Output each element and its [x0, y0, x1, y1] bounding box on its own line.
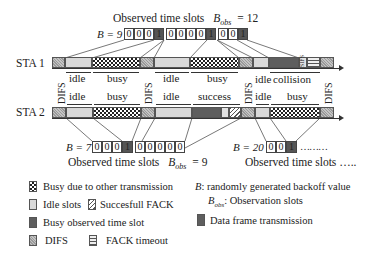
- slot: 0: [176, 28, 186, 40]
- sta2-difs: [320, 107, 334, 118]
- sta1-idle: [253, 57, 269, 68]
- sta2-difs: [52, 107, 66, 118]
- span-marker: [156, 104, 191, 105]
- bobs-sub: obs: [175, 162, 186, 171]
- sta1-busy-label: busy: [207, 73, 228, 84]
- slot: 0: [144, 28, 154, 40]
- b7-label: B = 7: [66, 142, 91, 153]
- idle-swatch-icon: [29, 199, 37, 210]
- bottom-observed2-label: Observed time slots …..: [245, 157, 356, 169]
- sta2-fack: [229, 107, 241, 118]
- sta1-collision-label: collision: [273, 74, 311, 85]
- slot-busy: 1: [238, 28, 248, 40]
- slot-busy: 1: [286, 141, 297, 153]
- sta2-busy: [270, 107, 320, 118]
- slot: 0: [112, 141, 122, 153]
- sta2-difs: [141, 107, 155, 118]
- sta2-label: STA 2: [16, 107, 45, 119]
- sta2-success-label: success: [198, 91, 231, 102]
- slot: 0: [166, 28, 176, 40]
- bottom-observed-label: Observed time slots Bobs = 9: [68, 157, 207, 171]
- difs-vertical-label: DIFS: [243, 82, 254, 104]
- span-marker: [193, 104, 240, 105]
- sifs-label: SIFS: [299, 55, 305, 67]
- bobs-def-text: : Observation slots: [224, 195, 303, 206]
- sta2-idle: [255, 107, 270, 118]
- legend-idle: Idle slots: [43, 200, 81, 211]
- slot-busy: 1: [206, 28, 216, 40]
- slot: 0: [124, 28, 134, 40]
- sta1-busy: [190, 57, 239, 68]
- sta2-data-success: [192, 107, 221, 118]
- slot: 0: [218, 28, 228, 40]
- bobs-value: = 9: [192, 156, 207, 168]
- slot: 0: [175, 141, 185, 153]
- sta1-difs: [52, 57, 65, 68]
- span-marker: [155, 72, 189, 73]
- slot: 0: [276, 141, 286, 153]
- slot: 0: [165, 141, 175, 153]
- difs-vertical-label: DIFS: [56, 82, 67, 104]
- span-marker: [271, 104, 319, 105]
- arrow-icon: [339, 65, 344, 71]
- sta1-fack-timeout: [307, 57, 320, 68]
- span-marker: [66, 72, 91, 73]
- sta2-idle-label: idle: [255, 91, 272, 102]
- span-marker: [93, 72, 139, 73]
- legend-fack: Succesfull FACK: [100, 200, 174, 211]
- sta2-busy-label: busy: [107, 91, 128, 102]
- sta2-idle: [155, 107, 192, 118]
- slot: 0: [228, 28, 238, 40]
- slot: 0: [92, 141, 102, 153]
- slot: 0: [135, 141, 145, 153]
- sta2-difs: [241, 107, 255, 118]
- sta1-axis: [52, 68, 340, 69]
- fack-timeout-swatch-icon: [89, 235, 97, 246]
- sta1-idle-label: idle: [163, 73, 180, 84]
- slot-busy: 1: [122, 141, 133, 153]
- bobs-sub: obs: [220, 18, 231, 27]
- b20-label: B = 20: [233, 142, 264, 153]
- sta1-idle-label: idle: [69, 73, 86, 84]
- legend-busy-other: Busy due to other transmission: [43, 182, 173, 193]
- span-marker: [94, 104, 140, 105]
- top-observed-label: Observed time slots Bobs = 12: [113, 13, 258, 27]
- sta2-idle-label: idle: [69, 91, 86, 102]
- legend-fack-timeout: FACK timeout: [106, 236, 168, 247]
- legend-data-frame: Data frame transmission: [210, 216, 313, 227]
- sta2-busy-label: busy: [287, 91, 308, 102]
- slot: 0: [155, 141, 165, 153]
- slot: 0: [102, 141, 112, 153]
- sta1-busy-label: busy: [107, 73, 128, 84]
- sta1-difs: [239, 57, 253, 68]
- legend-busy-observed: Busy observed time slot: [43, 218, 144, 229]
- difs-swatch-icon: [29, 235, 37, 246]
- legend-bobs-definition: Bobs: Observation slots: [208, 196, 303, 209]
- top-b-label: B = 9: [97, 29, 122, 40]
- sta1-busy: [92, 57, 140, 68]
- arrow-icon: [339, 115, 344, 121]
- span-marker: [256, 104, 269, 105]
- difs-vertical-label: DIFS: [323, 82, 334, 104]
- data-frame-swatch-icon: [197, 214, 205, 226]
- busy-observed-swatch-icon: [29, 217, 37, 228]
- bobs-sub: obs: [214, 201, 224, 209]
- sta1-label: STA 1: [16, 58, 45, 70]
- legend-difs: DIFS: [45, 236, 68, 247]
- sta2-sifs: [221, 107, 229, 118]
- span-marker: [67, 104, 92, 105]
- slot: 0: [134, 28, 144, 40]
- legend-b-definition: B: randomly generated backoff value: [195, 182, 351, 193]
- sta1-data-collision: [269, 57, 299, 68]
- sta2-idle-label: idle: [163, 91, 180, 102]
- slot-busy: 1: [154, 28, 164, 40]
- sta1-difs: [140, 57, 154, 68]
- sta1-idle: [65, 57, 92, 68]
- slot: 0: [196, 28, 206, 40]
- difs-vertical-label: DIFS: [143, 82, 154, 104]
- sta2-axis: [52, 118, 340, 119]
- b20-more-dots: ………: [300, 142, 327, 152]
- sta2-idle: [66, 107, 93, 118]
- span-marker: [191, 72, 238, 73]
- bobs-value: = 12: [237, 12, 258, 24]
